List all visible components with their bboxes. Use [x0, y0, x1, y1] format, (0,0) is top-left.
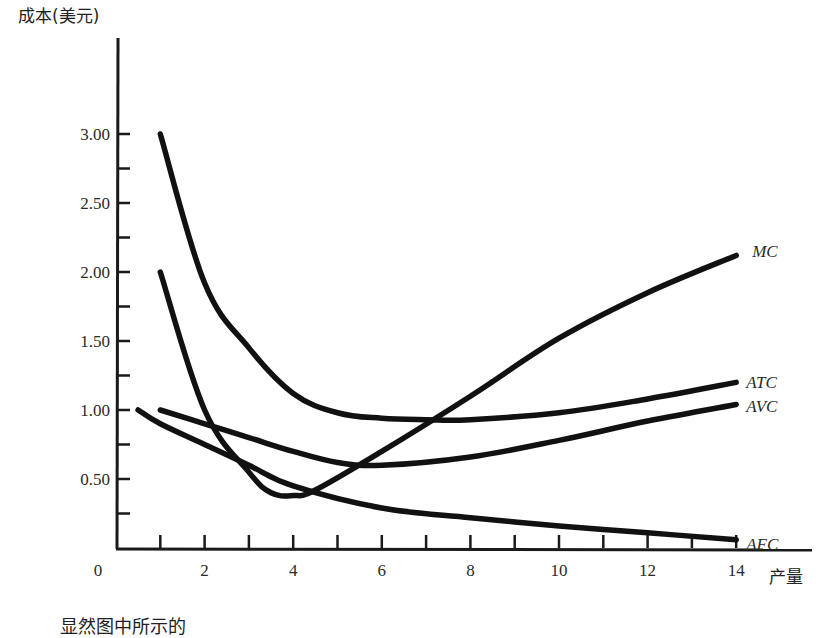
x-tick-label: 2: [200, 561, 209, 580]
x-axis-line: [116, 549, 812, 550]
y-axis-line: [117, 38, 118, 549]
x-tick-label: 14: [728, 561, 746, 580]
x-tick-label: 0: [94, 561, 103, 580]
series-curves: [138, 134, 736, 540]
series-labels: MCATCAVCAFC: [745, 242, 779, 553]
x-tick-label: 8: [466, 561, 475, 580]
x-axis-title: 产量: [769, 567, 803, 587]
x-tick-label: 6: [378, 561, 387, 580]
x-tick-label: 4: [289, 561, 298, 580]
atc-curve: [160, 134, 736, 420]
y-tick-label: 3.00: [80, 125, 110, 144]
y-tick-label: 1.50: [80, 332, 110, 351]
axis-ticks: [117, 134, 736, 548]
x-tick-label: 12: [639, 561, 656, 580]
y-tick-label: 1.00: [80, 401, 110, 420]
y-axis-title: 成本(美元): [18, 6, 99, 26]
y-tick-label: 0.50: [80, 470, 110, 489]
y-tick-label: 2.00: [80, 263, 110, 282]
avc-curve: [160, 404, 736, 465]
atc-label: ATC: [745, 373, 777, 392]
y-tick-label: 2.50: [80, 194, 110, 213]
figure-caption: 显然图中所示的: [60, 612, 186, 638]
afc-label: AFC: [745, 535, 779, 554]
avc-label: AVC: [745, 397, 778, 416]
axes: [116, 38, 812, 550]
x-tick-label: 10: [551, 561, 568, 580]
mc-label: MC: [751, 242, 778, 261]
